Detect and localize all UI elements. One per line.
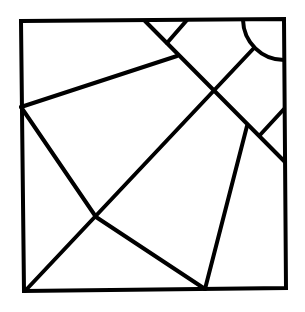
line-segments [21,20,285,291]
right-slant-to-bottom-line [205,126,247,289]
cross-point-to-bottom-line [96,217,205,289]
left-to-top-center-line [21,56,177,107]
geometric-diagram [0,0,305,312]
short-right-segment-line [260,109,284,135]
short-top-segment-line [167,20,187,43]
arc-to-bottom-left-line [25,48,254,291]
left-to-cross-point-line [21,107,96,217]
